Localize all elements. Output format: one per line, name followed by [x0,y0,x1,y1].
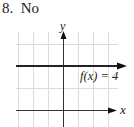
function-line-arrow-icon [117,63,127,70]
function-label: f(x) = 4 [80,69,118,83]
y-axis [61,31,67,127]
y-axis-label: y [59,19,66,33]
graph: y x f(x) = 4 [0,0,134,127]
x-axis-arrow-icon [108,108,117,114]
x-axis-label: x [119,102,126,117]
x-axis [16,108,117,114]
